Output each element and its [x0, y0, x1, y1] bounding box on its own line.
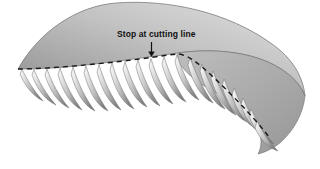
illustration-canvas: Stop at cutting line: [0, 0, 320, 169]
fringe-cutting-diagram: [0, 0, 320, 169]
annotation-label: Stop at cutting line: [117, 30, 196, 39]
